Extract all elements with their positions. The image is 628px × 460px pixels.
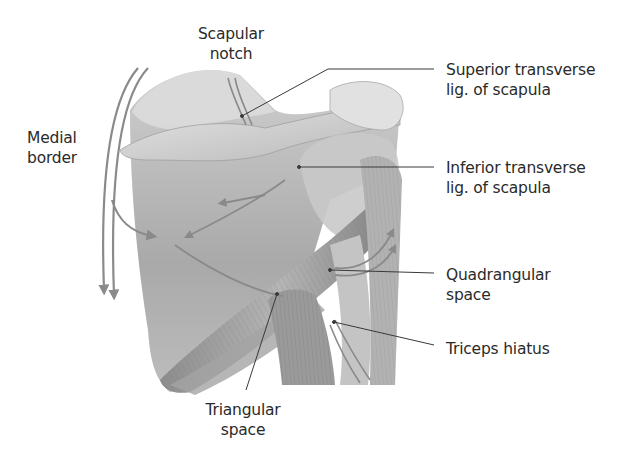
label-superior-transverse-lig: Superior transverse lig. of scapula [446,60,595,100]
label-line: Inferior transverse [446,158,586,178]
label-line: Superior transverse [446,60,595,80]
label-triangular-space: Triangular space [203,400,283,440]
label-line: Triangular [203,400,283,420]
label-line: Quadrangular [446,265,551,285]
label-line: Triceps hiatus [446,339,550,359]
label-triceps-hiatus: Triceps hiatus [446,339,550,359]
label-line: space [446,285,551,305]
label-line: notch [196,44,266,64]
label-line: border [27,148,77,168]
label-quadrangular-space: Quadrangular space [446,265,551,305]
label-line: lig. of scapula [446,178,586,198]
label-scapular-notch: Scapular notch [196,24,266,64]
label-inferior-transverse-lig: Inferior transverse lig. of scapula [446,158,586,198]
label-line: lig. of scapula [446,80,595,100]
label-line: Medial [27,128,77,148]
label-line: space [203,420,283,440]
triceps-long-head [268,290,335,385]
label-medial-border: Medial border [27,128,77,168]
label-line: Scapular [196,24,266,44]
